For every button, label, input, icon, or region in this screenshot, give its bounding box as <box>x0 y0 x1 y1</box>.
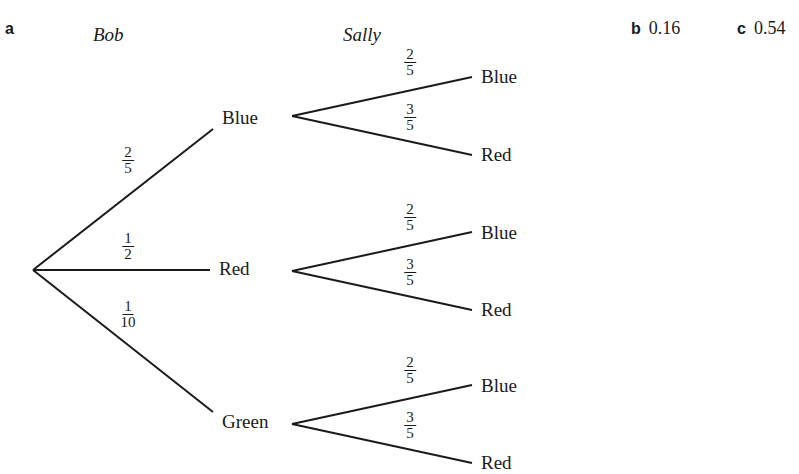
tree-branches <box>0 0 799 474</box>
prob-bob-green: 1 10 <box>119 299 138 330</box>
part-c-answer: c 0.54 <box>737 18 785 39</box>
header-sally: Sally <box>343 24 381 46</box>
part-b-label: b <box>631 20 641 38</box>
prob-bob-red: 1 2 <box>122 231 134 262</box>
header-bob: Bob <box>93 24 124 46</box>
part-b-answer: b 0.16 <box>631 18 680 39</box>
node-blue-blue: Blue <box>481 66 517 88</box>
node-blue-red: Red <box>481 144 512 166</box>
branch-blue-blue <box>292 77 472 116</box>
branch-green-blue <box>292 385 472 424</box>
node-bob-blue: Blue <box>222 107 258 129</box>
node-bob-green: Green <box>222 411 268 433</box>
part-a-label: a <box>5 20 14 38</box>
branch-green-red <box>292 424 472 463</box>
prob-red-red: 3 5 <box>404 257 416 288</box>
prob-blue-blue: 2 5 <box>404 47 416 78</box>
part-b-value: 0.16 <box>649 18 681 39</box>
branch-bob-green <box>33 270 213 412</box>
node-green-red: Red <box>481 452 512 474</box>
prob-red-blue: 2 5 <box>404 202 416 233</box>
prob-green-blue: 2 5 <box>404 355 416 386</box>
prob-green-red: 3 5 <box>404 410 416 441</box>
node-green-blue: Blue <box>481 375 517 397</box>
branch-red-blue <box>292 232 472 271</box>
node-red-red: Red <box>481 299 512 321</box>
prob-blue-red: 3 5 <box>404 102 416 133</box>
branch-blue-red <box>292 116 472 155</box>
prob-bob-blue: 2 5 <box>122 145 134 176</box>
part-c-value: 0.54 <box>754 18 786 39</box>
node-bob-red: Red <box>219 258 250 280</box>
node-red-blue: Blue <box>481 222 517 244</box>
part-c-label: c <box>737 20 746 38</box>
branch-red-red <box>292 271 472 310</box>
